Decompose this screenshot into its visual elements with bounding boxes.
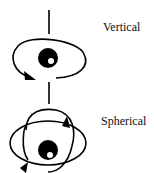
vertical-rotation-eye-icon [13, 10, 86, 104]
vertical-label: Vertical [103, 20, 140, 35]
rotation-diagram: Vertical Spherical [0, 0, 154, 173]
spherical-rotation-eye-icon [10, 109, 86, 173]
spherical-label: Spherical [101, 114, 146, 129]
